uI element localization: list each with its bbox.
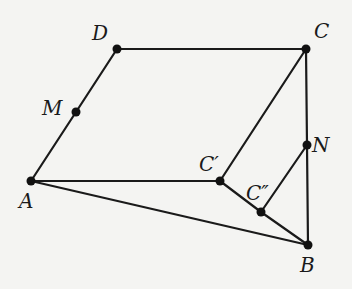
segment-n-b <box>307 145 308 245</box>
segments-layer <box>31 49 308 245</box>
point-b <box>304 241 313 250</box>
label-d: D <box>91 21 108 45</box>
label-b: B <box>299 253 315 277</box>
label-n: N <box>311 133 331 157</box>
point-a <box>27 177 36 186</box>
segment-c-c1 <box>220 49 306 181</box>
labels-layer: DCMAC′NC″B <box>17 19 331 277</box>
point-d <box>113 45 122 54</box>
segment-c-n <box>306 49 307 145</box>
point-c <box>302 45 311 54</box>
label-a: A <box>17 189 33 213</box>
label-c: C <box>314 19 329 43</box>
label-m: M <box>41 96 63 120</box>
segment-m-a <box>31 112 76 181</box>
point-n <box>303 141 312 150</box>
segment-d-m <box>76 49 117 112</box>
point-m <box>72 108 81 117</box>
point-c2 <box>257 208 266 217</box>
label-c1: C′ <box>199 152 219 176</box>
label-c2: C″ <box>246 181 269 205</box>
geometry-diagram: DCMAC′NC″B <box>0 0 352 289</box>
point-c1 <box>216 177 225 186</box>
